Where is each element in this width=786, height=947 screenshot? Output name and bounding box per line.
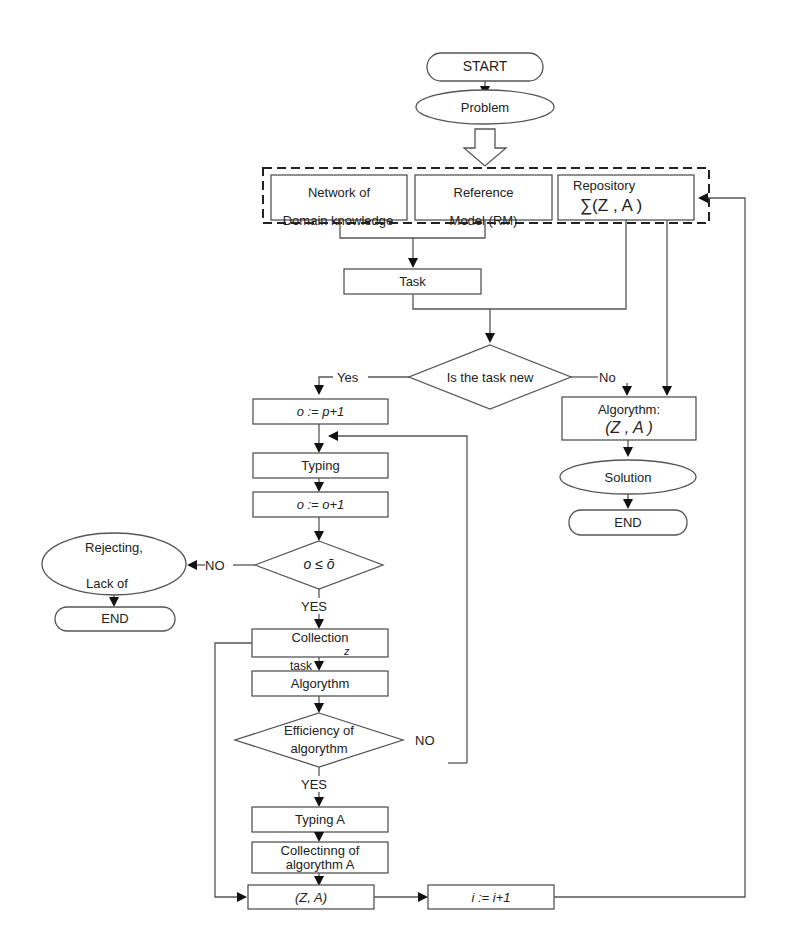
end-left-label: END [55, 611, 175, 626]
no-upper-label: NO [205, 558, 225, 573]
end-right-label: END [569, 515, 687, 530]
typing-a-label: Typing A [252, 812, 388, 827]
collection-sub-label: z [344, 644, 350, 659]
typing-label: Typing [253, 458, 388, 473]
algorythm-right-label-2: (Z , A ) [562, 419, 696, 437]
collecting-label-1: Collectinng of [252, 843, 388, 858]
za-label: (Z, A) [248, 890, 374, 905]
no-label: No [599, 370, 616, 385]
o-init-label: o := p+1 [253, 404, 388, 419]
start-label: START [427, 59, 543, 74]
efficiency-label-2: algorythm [235, 741, 403, 756]
collecting-label-2: algorythm A [252, 857, 388, 872]
task-small-label: task [290, 660, 312, 672]
problem-label: Problem [416, 100, 554, 115]
algorythm-right-label-1: Algorythm: [562, 402, 696, 417]
repository-formula: ∑(Z , A ) [580, 196, 642, 216]
o-inc-label: o := o+1 [253, 497, 388, 512]
reference-label-1: Reference [415, 185, 552, 200]
i-inc-label: i := i+1 [428, 890, 554, 905]
decision-limit-label: o ≤ ō [255, 557, 383, 572]
network-label-2: Domain knowledge [263, 213, 413, 228]
decision-new-label: Is the task new [409, 370, 571, 385]
network-label-1: Network of [271, 185, 407, 200]
rejecting-label-2: Lack of [42, 576, 172, 591]
task-label: Task [344, 274, 481, 289]
no-efficiency-label: NO [415, 733, 435, 748]
reference-label-2: Model (RM) [415, 213, 552, 228]
hollow-arrow [464, 129, 506, 166]
solution-label: Solution [560, 470, 696, 485]
algorythm-label: Algorythm [252, 676, 388, 691]
yes-efficiency-label: YES [301, 777, 327, 792]
rejecting-label-1: Rejecting, [42, 540, 186, 555]
efficiency-label-1: Efficiency of [235, 723, 403, 738]
decision-efficiency [235, 713, 403, 767]
repository-label: Repository [573, 178, 635, 193]
collection-label: Collection [252, 630, 388, 645]
yes-upper-label: YES [301, 599, 327, 614]
yes-label: Yes [337, 370, 358, 385]
